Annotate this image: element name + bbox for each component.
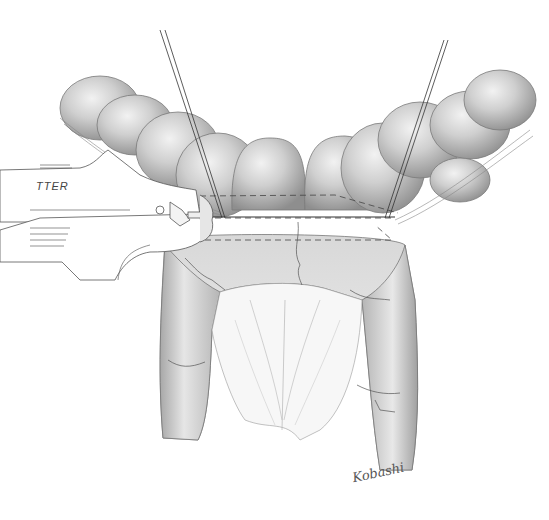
mesentery [212,283,362,440]
stapler-brand-label: TTER [36,180,69,192]
illustration-canvas [0,0,549,520]
surgical-illustration: TTER Kobashi [0,0,549,520]
